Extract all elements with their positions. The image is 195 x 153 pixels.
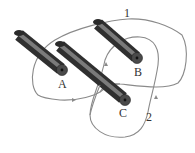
loop-1-arrow-icon: [72, 98, 76, 102]
label-wire-c: C: [119, 106, 127, 120]
loop-2-front-segment: [90, 85, 100, 115]
ampere-loops-diagram: A B C 1 2: [0, 0, 195, 153]
label-wire-b: B: [134, 65, 142, 79]
loop-2-arrow-icon-right: [154, 95, 158, 99]
label-loop-1: 1: [124, 6, 130, 20]
wire-b: [93, 19, 143, 64]
label-wire-a: A: [58, 77, 67, 91]
label-loop-2: 2: [146, 110, 152, 124]
